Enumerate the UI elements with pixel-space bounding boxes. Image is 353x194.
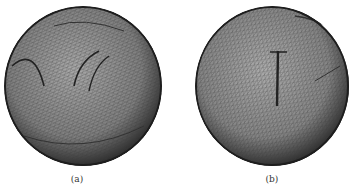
panel-b: (b) [176, 0, 353, 194]
panel-a: (a) [0, 0, 176, 194]
mesh-sphere-a [4, 6, 162, 166]
caption-a: (a) [62, 174, 92, 184]
mesh-sphere-b [195, 6, 350, 166]
caption-b: (b) [257, 174, 287, 184]
